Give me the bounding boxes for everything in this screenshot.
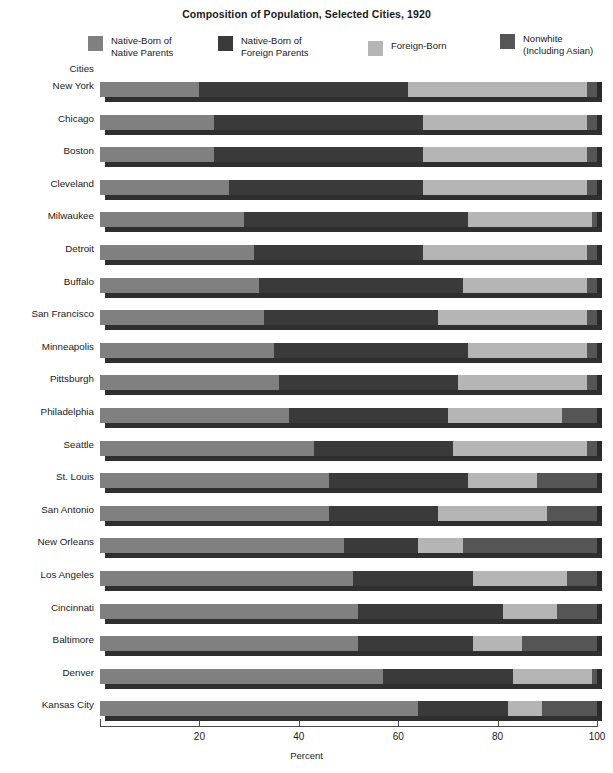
bar-segment[interactable] bbox=[100, 212, 244, 227]
bar-segment[interactable] bbox=[214, 115, 423, 130]
bar-segment[interactable] bbox=[468, 212, 592, 227]
bar-segment[interactable] bbox=[329, 506, 438, 521]
bar-stack[interactable] bbox=[100, 343, 602, 363]
bar-segment[interactable] bbox=[587, 278, 597, 293]
bar-stack[interactable] bbox=[100, 506, 602, 526]
bar-segment[interactable] bbox=[100, 669, 383, 684]
bar-segment[interactable] bbox=[463, 278, 587, 293]
bar-segment[interactable] bbox=[259, 278, 463, 293]
bar-segment[interactable] bbox=[100, 408, 289, 423]
bar-segment[interactable] bbox=[473, 636, 523, 651]
bar-stack[interactable] bbox=[100, 604, 602, 624]
bar-segment[interactable] bbox=[438, 310, 587, 325]
bar-stack[interactable] bbox=[100, 180, 602, 200]
bar-segment[interactable] bbox=[423, 180, 587, 195]
bar-segment[interactable] bbox=[100, 147, 214, 162]
bar-segment[interactable] bbox=[587, 310, 597, 325]
bar-segment[interactable] bbox=[468, 343, 587, 358]
bar-segment[interactable] bbox=[537, 473, 597, 488]
bar-segment[interactable] bbox=[542, 701, 597, 716]
bar-stack[interactable] bbox=[100, 636, 602, 656]
bar-segment[interactable] bbox=[358, 604, 502, 619]
bar-segment[interactable] bbox=[463, 538, 597, 553]
bar-segment[interactable] bbox=[289, 408, 448, 423]
bar-stack[interactable] bbox=[100, 473, 602, 493]
bar-segment[interactable] bbox=[423, 115, 587, 130]
bar-segment[interactable] bbox=[344, 538, 419, 553]
bar-segment[interactable] bbox=[423, 245, 587, 260]
bar-segment[interactable] bbox=[264, 310, 438, 325]
bar-stack[interactable] bbox=[100, 212, 602, 232]
bar-segment[interactable] bbox=[100, 538, 344, 553]
bar-segment[interactable] bbox=[100, 343, 274, 358]
bar-segment[interactable] bbox=[438, 506, 547, 521]
category-label: Chicago bbox=[0, 113, 94, 124]
bar-segment[interactable] bbox=[100, 506, 329, 521]
bar-segment[interactable] bbox=[100, 180, 229, 195]
bar-segment[interactable] bbox=[587, 375, 597, 390]
bar-segment[interactable] bbox=[100, 115, 214, 130]
bar-segment[interactable] bbox=[468, 473, 538, 488]
bar-stack[interactable] bbox=[100, 669, 602, 689]
bar-segment[interactable] bbox=[587, 82, 597, 97]
bar-segment[interactable] bbox=[513, 669, 593, 684]
bar-segment[interactable] bbox=[100, 278, 259, 293]
bar-stack[interactable] bbox=[100, 375, 602, 395]
bar-segment[interactable] bbox=[522, 636, 597, 651]
bar-segment[interactable] bbox=[557, 604, 597, 619]
bar-segment[interactable] bbox=[100, 571, 353, 586]
bar-stack[interactable] bbox=[100, 245, 602, 265]
bar-segment[interactable] bbox=[314, 441, 453, 456]
bar-segment[interactable] bbox=[100, 245, 254, 260]
bar-segment[interactable] bbox=[473, 571, 567, 586]
bar-segment[interactable] bbox=[244, 212, 468, 227]
bar-segment[interactable] bbox=[100, 604, 358, 619]
bar-segment[interactable] bbox=[587, 441, 597, 456]
bar-segment[interactable] bbox=[508, 701, 543, 716]
bar-stack[interactable] bbox=[100, 278, 602, 298]
bar-segment[interactable] bbox=[587, 115, 597, 130]
bar-segment[interactable] bbox=[199, 82, 408, 97]
bar-segment[interactable] bbox=[587, 245, 597, 260]
bar-segment[interactable] bbox=[383, 669, 512, 684]
bar-segment[interactable] bbox=[100, 636, 358, 651]
bar-segment[interactable] bbox=[254, 245, 423, 260]
bar-stack[interactable] bbox=[100, 82, 602, 102]
bar-segment[interactable] bbox=[567, 571, 597, 586]
bar-segment[interactable] bbox=[279, 375, 458, 390]
bar-segment[interactable] bbox=[423, 147, 587, 162]
bar-stack[interactable] bbox=[100, 571, 602, 591]
bar-segment[interactable] bbox=[458, 375, 587, 390]
bar-segment[interactable] bbox=[229, 180, 423, 195]
bar-segment[interactable] bbox=[274, 343, 468, 358]
bar-stack[interactable] bbox=[100, 147, 602, 167]
bar-stack[interactable] bbox=[100, 408, 602, 428]
bar-segment[interactable] bbox=[418, 701, 507, 716]
bar-stack[interactable] bbox=[100, 115, 602, 135]
bar-segment[interactable] bbox=[353, 571, 472, 586]
bar-segment[interactable] bbox=[418, 538, 463, 553]
bar-stack[interactable] bbox=[100, 701, 602, 721]
bar-stack[interactable] bbox=[100, 310, 602, 330]
x-axis-tick bbox=[498, 720, 499, 727]
bar-segment[interactable] bbox=[100, 82, 199, 97]
bar-segment[interactable] bbox=[562, 408, 597, 423]
bar-segment[interactable] bbox=[587, 147, 597, 162]
bar-segment[interactable] bbox=[329, 473, 468, 488]
bar-segment[interactable] bbox=[100, 441, 314, 456]
bar-segment[interactable] bbox=[100, 701, 418, 716]
bar-segment[interactable] bbox=[214, 147, 423, 162]
bar-segment[interactable] bbox=[587, 180, 597, 195]
bar-segment[interactable] bbox=[100, 310, 264, 325]
bar-segment[interactable] bbox=[358, 636, 472, 651]
bar-segment[interactable] bbox=[503, 604, 558, 619]
bar-segment[interactable] bbox=[408, 82, 587, 97]
bar-segment[interactable] bbox=[448, 408, 562, 423]
bar-segment[interactable] bbox=[547, 506, 597, 521]
bar-segment[interactable] bbox=[100, 375, 279, 390]
bar-segment[interactable] bbox=[453, 441, 587, 456]
bar-stack[interactable] bbox=[100, 441, 602, 461]
bar-segment[interactable] bbox=[100, 473, 329, 488]
bar-stack[interactable] bbox=[100, 538, 602, 558]
bar-segment[interactable] bbox=[587, 343, 597, 358]
